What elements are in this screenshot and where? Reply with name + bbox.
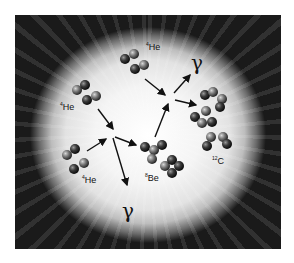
arrow-junction-to-gamma-bottom: [113, 138, 127, 185]
arrow-he-top-to-junction: [145, 79, 165, 95]
star-diagram: 4He 4He 4He 8Be 12C γ γ: [15, 15, 281, 249]
arrow-he-bottom-to-junction: [87, 139, 106, 151]
arrow-junction-to-gamma-top: [174, 75, 190, 93]
helium-nucleus-bottom: [62, 144, 89, 174]
helium-nucleus-left: [72, 80, 101, 105]
label-gamma-bottom: γ: [122, 199, 134, 223]
arrow-be-to-junction: [155, 104, 168, 137]
label-gamma-top: γ: [191, 51, 203, 75]
label-helium-top: 4He: [146, 41, 160, 52]
helium-nucleus-top: [120, 49, 149, 74]
arrow-he-left-to-junction: [98, 109, 113, 129]
label-helium-left: 4He: [60, 101, 74, 112]
label-helium-bottom: 4He: [82, 174, 96, 185]
label-carbon: 12C: [212, 155, 224, 166]
label-beryllium: 8Be: [145, 172, 159, 183]
arrow-junction-to-carbon: [175, 100, 196, 105]
carbon-nucleus: [190, 87, 232, 151]
arrow-junction-to-be: [115, 137, 136, 145]
